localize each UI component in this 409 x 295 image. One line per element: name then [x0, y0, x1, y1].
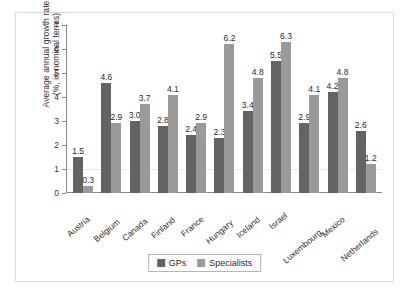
plot-area: 01234567 1.50.34.62.93.03.72.84.12.42.92…	[66, 25, 382, 193]
bar-specialists-netherlands[interactable]: 1.2	[366, 164, 376, 193]
bar-value-label: 1.2	[365, 153, 377, 163]
bar-value-label: 2.6	[355, 120, 367, 130]
bar-value-label: 4.6	[100, 72, 112, 82]
legend-item-gps[interactable]: GPs	[157, 258, 187, 268]
y-tick-label-3: 3	[54, 116, 59, 126]
bar-group: 2.61.2	[352, 25, 380, 193]
y-tick-3	[62, 121, 66, 122]
bar-gps-luxembourg[interactable]: 2.9	[299, 123, 309, 193]
x-label-cell: Luxembourg	[296, 195, 324, 257]
legend-item-specialists[interactable]: Specialists	[197, 258, 252, 268]
y-tick-label-6: 6	[54, 44, 59, 54]
x-axis-label-text: Finland	[149, 215, 177, 241]
x-label-cell: Belgium	[97, 195, 125, 257]
x-label-cell: France	[182, 195, 210, 257]
bar-group: 5.56.3	[267, 25, 295, 193]
x-axis-label-text: Austria	[65, 214, 92, 239]
bar-gps-mexico[interactable]: 4.2	[328, 92, 338, 193]
bar-group: 2.36.2	[210, 25, 238, 193]
x-axis-label-netherlands: Netherlands	[373, 197, 409, 234]
bar-group: 2.42.9	[182, 25, 210, 193]
legend-label-specialists: Specialists	[209, 258, 252, 268]
bar-value-label: 4.8	[252, 67, 264, 77]
bar-gps-canada[interactable]: 3.0	[130, 121, 140, 193]
x-axis-labels: AustriaBelgiumCanadaFinlandFranceHungary…	[67, 195, 383, 257]
bar-value-label: 4.8	[337, 67, 349, 77]
bar-gps-finland[interactable]: 2.8	[158, 126, 168, 193]
y-tick-label-1: 1	[54, 164, 59, 174]
bar-gps-iceland[interactable]: 3.4	[243, 111, 253, 193]
chart-legend: GPs Specialists	[148, 254, 262, 272]
bar-value-label: 0.3	[82, 175, 94, 185]
bar-value-label: 6.2	[224, 33, 236, 43]
bar-group: 2.84.1	[154, 25, 182, 193]
y-tick-0	[62, 193, 66, 194]
bar-gps-hungary[interactable]: 2.3	[214, 138, 224, 193]
bar-group: 4.24.8	[323, 25, 351, 193]
x-axis-label-text: Israel	[267, 210, 289, 231]
bar-value-label: 1.5	[72, 146, 84, 156]
bar-value-label: 4.1	[167, 84, 179, 94]
bar-specialists-austria[interactable]: 0.3	[83, 186, 93, 193]
bar-value-label: 6.3	[280, 31, 292, 41]
y-tick-label-7: 7	[54, 20, 59, 30]
bar-group: 2.94.1	[295, 25, 323, 193]
x-axis-label-text: France	[179, 214, 206, 239]
bar-value-label: 2.9	[195, 112, 207, 122]
y-tick-label-4: 4	[54, 92, 59, 102]
bar-specialists-finland[interactable]: 4.1	[168, 95, 178, 193]
legend-swatch-specialists	[197, 259, 205, 267]
bar-groups: 1.50.34.62.93.03.72.84.12.42.92.36.23.44…	[67, 25, 382, 193]
bar-specialists-mexico[interactable]: 4.8	[338, 78, 348, 193]
y-tick-5	[62, 73, 66, 74]
y-tick-label-5: 5	[54, 68, 59, 78]
x-label-cell: Hungary	[211, 195, 239, 257]
bar-specialists-luxembourg[interactable]: 4.1	[309, 95, 319, 193]
y-axis-title-line1: Average annual growth rate	[41, 1, 52, 108]
x-axis-label-text: Mexico	[320, 214, 347, 239]
y-axis-title: Average annual growth rate (%, in nomina…	[36, 0, 66, 139]
bar-group: 3.44.8	[239, 25, 267, 193]
legend-swatch-gps	[157, 259, 165, 267]
bar-value-label: 3.7	[139, 93, 151, 103]
legend-label-gps: GPs	[169, 258, 187, 268]
bar-specialists-iceland[interactable]: 4.8	[253, 78, 263, 193]
bar-gps-israel[interactable]: 5.5	[271, 61, 281, 193]
y-tick-label-0: 0	[54, 188, 59, 198]
y-tick-7	[62, 25, 66, 26]
y-tick-label-2: 2	[54, 140, 59, 150]
y-tick-4	[62, 97, 66, 98]
y-tick-2	[62, 145, 66, 146]
bar-gps-belgium[interactable]: 4.6	[101, 83, 111, 193]
y-tick-6	[62, 49, 66, 50]
bar-value-label: 4.1	[308, 84, 320, 94]
bar-group: 4.62.9	[97, 25, 125, 193]
bar-specialists-france[interactable]: 2.9	[196, 123, 206, 193]
y-tick-1	[62, 169, 66, 170]
x-label-cell: Netherlands	[353, 195, 381, 257]
x-label-cell: Iceland	[239, 195, 267, 257]
bar-group: 3.03.7	[126, 25, 154, 193]
bar-specialists-canada[interactable]: 3.7	[140, 104, 150, 193]
bar-gps-france[interactable]: 2.4	[186, 135, 196, 193]
bar-specialists-hungary[interactable]: 6.2	[224, 44, 234, 193]
bar-value-label: 2.9	[110, 112, 122, 122]
bar-specialists-belgium[interactable]: 2.9	[111, 123, 121, 193]
x-label-cell: Austria	[69, 195, 97, 257]
bar-specialists-israel[interactable]: 6.3	[281, 42, 291, 193]
bar-group: 1.50.3	[69, 25, 97, 193]
x-label-cell: Canada	[126, 195, 154, 257]
x-axis-label-text: Iceland	[235, 215, 262, 240]
chart-figure: Average annual growth rate (%, in nomina…	[15, 12, 394, 282]
x-label-cell: Finland	[154, 195, 182, 257]
